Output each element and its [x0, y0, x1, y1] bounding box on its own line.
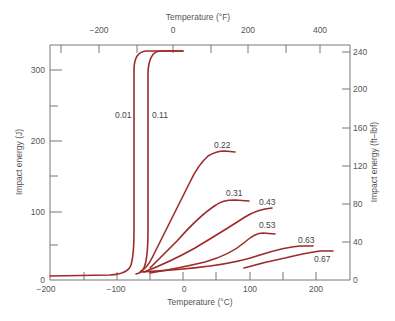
y2-tick-label: 80 [353, 199, 363, 209]
y2-tick-label: 0 [353, 275, 358, 285]
impact-energy-chart: −200 −100 0 100 200 Temperature (°C) −20… [0, 0, 395, 321]
curve-0.01 [50, 51, 183, 276]
x2-tick-label: −200 [89, 25, 108, 35]
left-ticks [50, 70, 62, 245]
x-tick-label: 100 [243, 284, 257, 294]
x2-tick-label: 0 [171, 25, 176, 35]
left-tick-labels: 0 100 200 300 [31, 65, 45, 285]
y-tick-label: 200 [31, 136, 45, 146]
bottom-tick-labels: −200 −100 0 100 200 [36, 284, 323, 294]
x-tick-label: −100 [106, 284, 125, 294]
curve-0.63 [140, 246, 313, 272]
x2-axis-title: Temperature (°F) [166, 12, 231, 22]
y2-tick-label: 200 [353, 84, 367, 94]
curve-label-0.63: 0.63 [298, 235, 315, 245]
curves [50, 51, 333, 276]
curve-label-0.31: 0.31 [226, 188, 243, 198]
curve-label-0.43: 0.43 [259, 197, 276, 207]
y-tick-label: 300 [31, 65, 45, 75]
curve-0.11 [136, 51, 183, 274]
curve-label-0.01: 0.01 [115, 110, 132, 120]
y2-tick-label: 40 [353, 237, 363, 247]
x2-tick-label: 400 [313, 25, 327, 35]
x-tick-label: 200 [309, 284, 323, 294]
curve-0.53 [150, 233, 275, 273]
curve-0.22 [141, 151, 235, 271]
top-tick-labels: −200 0 200 400 [89, 25, 327, 35]
x-axis-title: Temperature (°C) [167, 297, 232, 307]
curve-label-0.53: 0.53 [259, 220, 276, 230]
x-tick-label: 0 [182, 284, 187, 294]
right-tick-labels: 0 40 80 120 160 200 240 [353, 47, 367, 285]
y-tick-label: 100 [31, 207, 45, 217]
top-ticks [61, 45, 320, 53]
curve-label-0.11: 0.11 [152, 110, 168, 120]
y2-tick-label: 160 [353, 123, 367, 133]
x-tick-label: −200 [36, 284, 55, 294]
y-tick-label: 0 [40, 275, 45, 285]
curve-0.43 [144, 208, 272, 272]
curve-label-0.67: 0.67 [314, 254, 331, 264]
y-axis-title: Impact energy (J) [14, 129, 24, 195]
y2-tick-label: 120 [353, 161, 367, 171]
right-ticks [342, 52, 350, 242]
x2-tick-label: 200 [241, 25, 255, 35]
y2-axis-title: Impact energy (ft–lbf) [369, 122, 379, 202]
curve-label-0.22: 0.22 [214, 140, 231, 150]
y2-tick-label: 240 [353, 47, 367, 57]
